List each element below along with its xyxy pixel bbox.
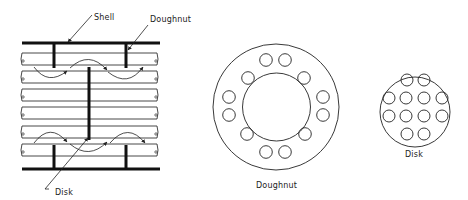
disk-tube-holes: [383, 74, 448, 140]
tube: [21, 144, 158, 156]
disk-doughnut-baffle-diagram: Shell Doughnut Disk Doughnut: [0, 0, 468, 200]
doughnut-outer-circle: [213, 44, 339, 170]
tube: [21, 53, 158, 65]
doughnut-label: Doughnut: [150, 15, 191, 24]
disk-leader-line: [45, 138, 88, 189]
doughnut-leader-line: [128, 25, 148, 50]
disk-label: Disk: [55, 188, 73, 197]
doughnut-view: Doughnut: [213, 44, 339, 190]
side-view: Shell Doughnut Disk: [21, 13, 191, 197]
shell-label: Shell: [94, 13, 115, 22]
doughnut-tube-holes: [223, 54, 330, 159]
shell-leader-line: [68, 15, 92, 42]
disk-outer-circle: [380, 77, 450, 147]
disk-view: Disk: [380, 74, 450, 159]
disk-view-label: Disk: [405, 150, 423, 159]
doughnut-view-label: Doughnut: [256, 181, 297, 190]
